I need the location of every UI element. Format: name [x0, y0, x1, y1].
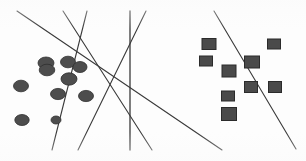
class-b-square-marker [245, 56, 260, 68]
class-a-circle-marker [14, 80, 29, 92]
class-b-square-marker [269, 82, 282, 93]
class-b-square-marker [222, 108, 237, 121]
class-a-circle-marker [79, 90, 94, 101]
class-a-circle-marker [73, 62, 87, 73]
class-a-circle-marker [51, 116, 61, 124]
figure-canvas [0, 0, 306, 161]
class-b-square-marker [202, 39, 216, 50]
class-b-square-marker [200, 56, 213, 66]
class-b-square-marker [268, 39, 281, 49]
scatter-plot-svg [0, 0, 306, 161]
class-a-circle-marker [51, 88, 66, 99]
class-b-square-marker [222, 65, 236, 77]
class-b-square-marker [245, 82, 258, 93]
class-a-circle-marker [15, 115, 29, 126]
class-b-square-marker [222, 91, 235, 101]
class-a-circle-marker [61, 73, 77, 85]
class-a-circle-marker [39, 64, 55, 76]
plot-background [0, 0, 306, 161]
